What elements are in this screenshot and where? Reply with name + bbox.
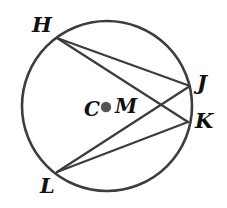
- geometry-figure: H J K L C M: [0, 0, 227, 208]
- chord-h-j: [57, 38, 190, 86]
- point-label-j: J: [197, 72, 207, 93]
- point-label-l: L: [40, 175, 55, 196]
- center-label-c: C: [84, 99, 100, 119]
- center-point-dot: [101, 102, 111, 112]
- point-label-h: H: [32, 14, 52, 35]
- center-label-m: M: [115, 96, 137, 116]
- point-label-k: K: [195, 110, 213, 131]
